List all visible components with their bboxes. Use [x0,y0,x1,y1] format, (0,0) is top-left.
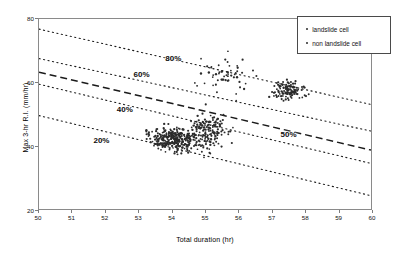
scatter-point [179,133,181,135]
scatter-point [212,126,214,128]
scatter-point [215,84,217,86]
scatter-point [268,96,270,98]
scatter-point [288,82,290,84]
scatter-point [173,137,175,139]
scatter-point [223,114,225,116]
scatter-point [216,137,218,139]
scatter-point [211,131,213,133]
scatter-point [217,79,219,81]
scatter-point [186,148,188,150]
scatter-point [163,130,165,132]
x-tick-label: 51 [68,214,75,221]
scatter-point [199,141,201,143]
scatter-point [227,133,229,135]
y-tick-label: 80 [20,15,34,22]
scatter-point [210,124,212,126]
scatter-point [200,122,202,124]
contour-label-60pct: 60% [134,70,150,79]
scatter-point [180,132,182,134]
scatter-point [245,83,247,85]
y-tick-mark [35,18,38,19]
scatter-point [164,144,166,146]
scatter-point [233,76,235,78]
scatter-point [146,138,148,140]
scatter-point [221,70,223,72]
scatter-point [163,135,165,137]
scatter-point [285,96,287,98]
scatter-point [204,82,206,84]
scatter-point [219,120,221,122]
contour-label-80pct: 80% [165,54,181,63]
scatter-point [215,141,217,143]
scatter-point [157,148,159,150]
scatter-point [286,91,288,93]
scatter-point [155,143,157,145]
scatter-point [241,72,243,74]
scatter-point [219,123,221,125]
scatter-point [145,130,147,132]
scatter-point [177,153,179,155]
scatter-point [213,124,215,126]
scatter-point [163,123,165,125]
scatter-point [204,124,206,126]
legend-label: landslide cell [312,26,349,33]
scatter-point [236,70,238,72]
scatter-point [214,135,216,137]
scatter-point [194,122,196,124]
scatter-point [164,142,166,144]
scatter-point [212,119,214,121]
scatter-point [164,146,166,148]
scatter-point [209,127,211,129]
scatter-point [227,73,229,75]
scatter-point [218,64,220,66]
x-tick-mark [372,210,373,213]
scatter-point [299,97,301,99]
scatter-point [174,151,176,153]
scatter-point [230,74,232,76]
scatter-point [305,95,307,97]
scatter-point [157,132,159,134]
legend-label: non landslide cell [312,40,361,47]
contour-label-40pct: 40% [117,105,133,114]
scatter-point [157,145,159,147]
scatter-point [194,144,196,146]
scatter-point [146,133,148,135]
scatter-point [212,76,214,78]
scatter-point [213,144,215,146]
scatter-point [280,90,282,92]
scatter-point [217,128,219,130]
x-tick-mark [238,210,239,213]
scatter-point [176,138,178,140]
scatter-point [216,91,218,93]
scatter-point [175,146,177,148]
scatter-point [176,126,178,128]
scatter-point [294,91,296,93]
scatter-point [165,151,167,153]
scatter-point [181,147,183,149]
scatter-point [181,138,183,140]
scatter-point [238,81,240,83]
scatter-point [218,143,220,145]
scatter-point [206,65,208,67]
scatter-point [215,73,217,75]
scatter-point [204,131,206,133]
scatter-point [290,91,292,93]
scatter-point [212,142,214,144]
scatter-point [301,97,303,99]
scatter-point [293,89,295,91]
scatter-point [288,99,290,101]
scatter-point [198,134,200,136]
scatter-point [204,136,206,138]
scatter-point [204,118,206,120]
scatter-point [281,83,283,85]
scatter-point [196,85,198,87]
scatter-point [277,81,279,83]
scatter-point [278,95,280,97]
scatter-point [171,145,173,147]
legend-marker-dot [306,28,308,30]
scatter-point [199,127,201,129]
scatter-point [202,146,204,148]
scatter-point [154,135,156,137]
scatter-point [294,80,296,82]
scatter-point [166,137,168,139]
